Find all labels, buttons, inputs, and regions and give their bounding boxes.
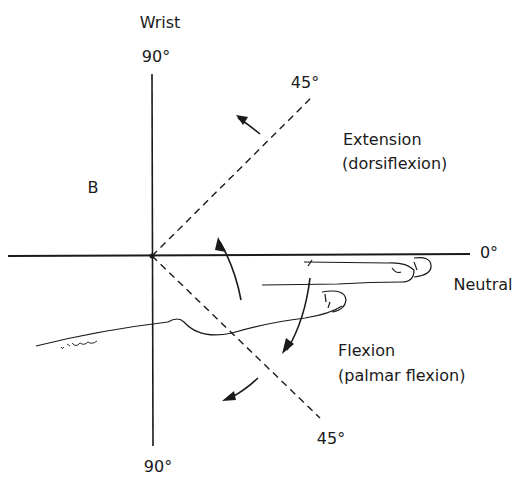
lower-45-label: 45°	[317, 429, 345, 448]
top-90-label: 90°	[142, 47, 170, 66]
extension-arrow-icon	[215, 237, 241, 300]
neutral-label: Neutral	[453, 275, 512, 294]
vertical-axis	[152, 74, 153, 446]
figure-title: Wrist	[140, 13, 181, 32]
extension-45-dashed-line	[152, 96, 313, 256]
flexion-label: Flexion	[338, 341, 395, 360]
neutral-0-label: 0°	[480, 243, 498, 262]
flexion-arrow-lower-icon	[222, 378, 258, 401]
bottom-90-label: 90°	[144, 457, 172, 476]
wrist-range-of-motion-diagram: Wrist B 90° 90° 0° Neutral 45° 45° Exten…	[0, 0, 528, 485]
dorsiflexion-label: (dorsiflexion)	[342, 154, 447, 173]
upper-45-label: 45°	[291, 73, 319, 92]
flexion-arrow-icon	[282, 278, 310, 354]
artist-signature-icon	[61, 341, 97, 349]
panel-label: B	[88, 178, 99, 197]
extension-arrow-upper-icon	[236, 115, 260, 134]
palmar-flexion-label: (palmar flexion)	[338, 366, 465, 385]
extension-label: Extension	[343, 130, 422, 149]
horizontal-axis	[8, 254, 470, 256]
